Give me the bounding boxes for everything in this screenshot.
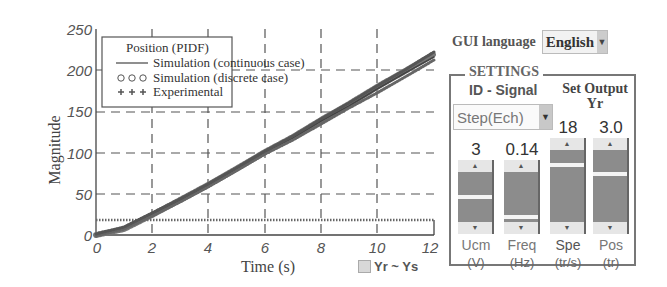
ytick: 250 — [66, 21, 93, 38]
y-axis-label: Magnitude — [46, 115, 64, 184]
slider-value: 18 — [548, 118, 588, 138]
slider-pos: 3.0 ▲ ▼ Pos (tr) — [591, 118, 631, 270]
slider-value: 0.14 — [502, 140, 542, 160]
slider-thumb[interactable] — [593, 172, 627, 176]
slider-unit: (Hz) — [502, 255, 542, 270]
slider-unit: (tr/s) — [548, 255, 588, 270]
slider-ucm: 3 ▲ ▼ Ucm (V) — [456, 140, 496, 270]
arrow-up-icon[interactable]: ▲ — [458, 160, 492, 172]
slider-name: Pos — [591, 237, 631, 253]
legend-entry: Simulation (continuous case) — [153, 55, 305, 70]
xtick: 6 — [261, 239, 270, 256]
slider-spe: 18 ▲ ▼ Spe (tr/s) — [548, 118, 588, 270]
chevron-down-icon[interactable]: ▼ — [597, 31, 607, 53]
slider-value: 3 — [456, 140, 496, 160]
signal-value: Step(Ech) — [454, 109, 539, 126]
pos-slider[interactable]: ▲ ▼ — [593, 138, 629, 234]
arrow-down-icon[interactable]: ▼ — [504, 222, 538, 234]
xtick: 12 — [422, 239, 439, 256]
checkbox-label: Yr ~ Ys — [374, 259, 418, 274]
xtick: 4 — [204, 239, 212, 256]
set-output-text: Set Output — [555, 81, 635, 96]
x-axis-label: Time (s) — [241, 258, 295, 276]
slider-thumb[interactable] — [550, 163, 584, 167]
settings-panel: SETTINGS ID - Signal Set Output Yr Step(… — [449, 74, 636, 266]
ucm-slider[interactable]: ▲ ▼ — [458, 160, 494, 234]
slider-freq: 0.14 ▲ ▼ Freq (Hz) — [502, 140, 542, 270]
id-signal-label: ID - Signal — [469, 82, 537, 98]
checkbox-box[interactable] — [358, 260, 371, 273]
slider-thumb[interactable] — [504, 215, 538, 219]
language-selector-row: GUI language English ▼ — [452, 30, 608, 54]
settings-title: SETTINGS — [465, 64, 543, 80]
arrow-down-icon[interactable]: ▼ — [458, 222, 492, 234]
ytick: 200 — [66, 62, 93, 79]
arrow-down-icon[interactable]: ▼ — [593, 222, 627, 234]
arrow-up-icon[interactable]: ▲ — [550, 138, 584, 150]
slider-thumb[interactable] — [458, 195, 492, 199]
legend-title: Position (PIDF) — [126, 40, 209, 55]
legend-entry: Simulation (discrete case) — [153, 70, 288, 85]
slider-value: 3.0 — [591, 118, 631, 138]
arrow-up-icon[interactable]: ▲ — [593, 138, 627, 150]
spe-slider[interactable]: ▲ ▼ — [550, 138, 586, 234]
position-chart: 250 200 150 100 50 0 0 2 4 6 8 10 12 Tim… — [0, 0, 445, 287]
arrow-up-icon[interactable]: ▲ — [504, 160, 538, 172]
slider-name: Freq — [502, 237, 542, 253]
yr-ys-checkbox[interactable]: Yr ~ Ys — [358, 259, 418, 274]
language-dropdown[interactable]: English ▼ — [542, 30, 608, 54]
ytick: 100 — [67, 145, 93, 162]
ytick: 50 — [75, 186, 92, 203]
ytick: 150 — [67, 103, 93, 120]
slider-name: Spe — [548, 237, 588, 253]
arrow-down-icon[interactable]: ▼ — [550, 222, 584, 234]
legend: Position (PIDF) Simulation (continuous c… — [102, 37, 305, 107]
slider-name: Ucm — [456, 237, 496, 253]
legend-entry: Experimental — [153, 84, 223, 99]
xtick: 0 — [93, 239, 102, 256]
language-value: English — [543, 34, 597, 51]
slider-unit: (tr) — [591, 255, 631, 270]
set-output-label: Set Output Yr — [555, 81, 635, 111]
yr-label: Yr — [555, 96, 635, 111]
freq-slider[interactable]: ▲ ▼ — [504, 160, 540, 234]
xtick: 2 — [147, 239, 157, 256]
language-label: GUI language — [452, 34, 536, 50]
xtick: 10 — [369, 239, 386, 256]
slider-unit: (V) — [456, 255, 496, 270]
ytick: 0 — [84, 227, 93, 244]
xtick: 8 — [317, 239, 326, 256]
signal-dropdown[interactable]: Step(Ech) ▼ — [453, 104, 553, 130]
